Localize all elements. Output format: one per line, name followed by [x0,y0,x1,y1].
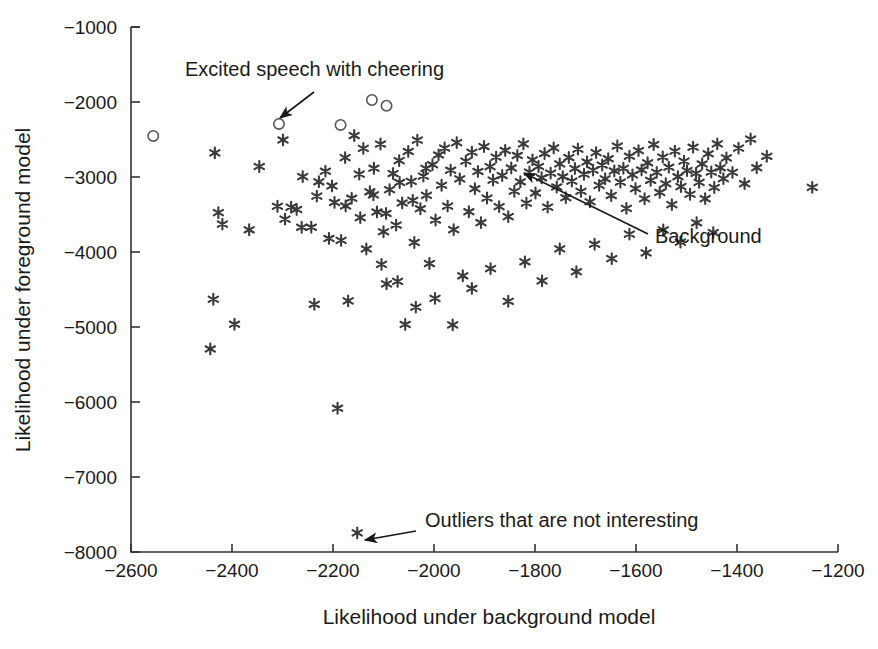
marker-asterisk [549,143,558,154]
marker-asterisk [431,215,440,226]
marker-asterisk [470,183,479,194]
marker-asterisk [570,163,579,174]
marker-asterisk [537,275,546,286]
marker-asterisk [385,184,394,195]
marker-asterisk [501,145,510,156]
marker-asterisk [588,165,597,176]
marker-asterisk [310,299,319,310]
marker-asterisk [646,175,655,186]
marker-asterisk [622,203,631,214]
marker-asterisk [440,143,449,154]
marker-asterisk [321,166,330,177]
annotation-leader-line [365,531,416,540]
marker-asterisk [740,178,749,189]
marker-asterisk [658,152,667,163]
marker-asterisk [214,207,223,218]
marker-open-circle [148,131,158,141]
marker-asterisk [280,214,289,225]
marker-asterisk [640,193,649,204]
marker-asterisk [452,137,461,148]
annotation-text: Outliers that are not interesting [425,509,698,531]
marker-asterisk [716,162,725,173]
marker-asterisk [504,296,513,307]
marker-asterisk [455,173,464,184]
marker-asterisk [520,256,529,267]
marker-asterisk [701,193,710,204]
marker-asterisk [359,143,368,154]
marker-asterisk [590,239,599,250]
x-tick-label: −1200 [811,560,864,581]
y-axis-ticks: −8000−7000−6000−5000−4000−3000−2000−1000 [64,17,140,563]
marker-asterisk [372,207,381,218]
marker-asterisk [572,266,581,277]
marker-asterisk [395,177,404,188]
marker-asterisk [746,134,755,145]
y-tick-label: −6000 [64,392,117,413]
scatter-plot-figure: −2600−2400−2200−2000−1800−1600−1400−1200… [0,0,878,649]
marker-asterisk [576,186,585,197]
marker-asterisk [667,199,676,210]
marker-asterisk [443,201,452,212]
marker-asterisk [391,220,400,231]
marker-asterisk [616,177,625,188]
plot-canvas: −2600−2400−2200−2000−1800−1600−1400−1200… [0,0,878,649]
marker-asterisk [607,190,616,201]
marker-asterisk [504,211,513,222]
marker-asterisk [458,270,467,281]
data-markers [148,95,817,538]
marker-asterisk [413,135,422,146]
marker-open-circle [274,119,284,129]
marker-asterisk [479,141,488,152]
marker-asterisk [697,159,706,170]
marker-asterisk [516,176,525,187]
marker-asterisk [573,144,582,155]
marker-asterisk [728,167,737,178]
marker-open-circle [381,101,391,111]
marker-asterisk [278,135,287,146]
marker-asterisk [649,139,658,150]
marker-asterisk [355,169,364,180]
marker-asterisk [613,141,622,152]
marker-asterisk [482,193,491,204]
marker-asterisk [486,263,495,274]
marker-asterisk [362,244,371,255]
marker-asterisk [434,150,443,161]
marker-asterisk [752,162,761,173]
marker-asterisk [401,319,410,330]
marker-asterisk [398,198,407,209]
marker-asterisk [579,169,588,180]
marker-asterisk [628,170,637,181]
annotation-text: Background [655,225,762,247]
marker-asterisk [448,320,457,331]
x-tick-label: −2600 [104,560,157,581]
marker-asterisk [324,233,333,244]
annotation-text: Excited speech with cheering [185,58,444,80]
marker-asterisk [377,259,386,270]
plot-axes [131,27,838,552]
annotation-leader-line [280,92,314,118]
marker-asterisk [428,159,437,170]
marker-asterisk [510,186,519,197]
marker-asterisk [652,167,661,178]
marker-asterisk [498,170,507,181]
y-tick-label: −2000 [64,92,117,113]
marker-asterisk [582,157,591,168]
x-axis-title: Likelihood under background model [323,605,656,628]
marker-asterisk [404,146,413,157]
marker-asterisk [369,163,378,174]
x-tick-label: −2000 [407,560,460,581]
marker-asterisk [244,224,253,235]
marker-asterisk [416,203,425,214]
marker-asterisk [713,138,722,149]
marker-asterisk [408,195,417,206]
marker-asterisk [467,283,476,294]
x-tick-label: −1600 [609,560,662,581]
marker-asterisk [382,278,391,289]
marker-asterisk [631,183,640,194]
marker-asterisk [350,130,359,141]
excited-speech-annotation: Excited speech with cheering [185,58,444,118]
marker-asterisk [634,145,643,156]
marker-asterisk [688,142,697,153]
marker-asterisk [540,148,549,159]
marker-asterisk [522,198,531,209]
